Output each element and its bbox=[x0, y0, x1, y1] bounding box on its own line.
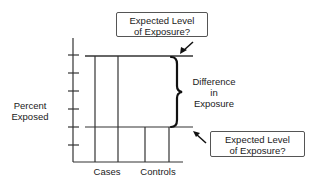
callout-top-line1: Expected Level bbox=[117, 15, 207, 26]
difference-label-line2: in bbox=[186, 87, 242, 98]
callout-bottom-line1: Expected Level bbox=[211, 134, 304, 145]
callout-top-line2: of Exposure? bbox=[117, 26, 207, 37]
difference-brace-icon bbox=[171, 57, 182, 127]
callout-top: Expected Level of Exposure? bbox=[116, 12, 208, 37]
difference-label: Difference in Exposure bbox=[186, 76, 242, 109]
callout-bottom-line2: of Exposure? bbox=[211, 145, 304, 156]
x-label-cases: Cases bbox=[89, 166, 125, 177]
callout-bottom: Expected Level of Exposure? bbox=[210, 131, 305, 157]
y-axis-label-line2: Exposed bbox=[5, 111, 55, 122]
difference-label-line1: Difference bbox=[186, 76, 242, 87]
y-axis-label: Percent Exposed bbox=[5, 100, 55, 122]
x-label-controls: Controls bbox=[135, 166, 181, 177]
cases-bar bbox=[95, 56, 118, 162]
arrow-icon-top bbox=[180, 42, 193, 54]
difference-label-line3: Exposure bbox=[186, 98, 242, 109]
arrow-icon-bottom bbox=[193, 131, 206, 143]
controls-bar bbox=[145, 127, 169, 162]
y-axis-label-line1: Percent bbox=[5, 100, 55, 111]
